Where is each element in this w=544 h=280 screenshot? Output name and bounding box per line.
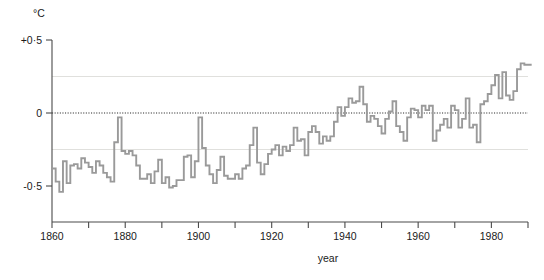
x-axis-tick-label: 1980 <box>480 230 504 242</box>
y-axis-tick-label: -0·5 <box>23 180 42 192</box>
x-axis-tick-label: 1880 <box>114 230 138 242</box>
x-axis-tick-label: 1900 <box>187 230 211 242</box>
temperature-step-line <box>52 63 532 191</box>
x-axis-tick-label: 1920 <box>260 230 284 242</box>
x-axis: 1860188019001920194019601980 <box>40 222 528 242</box>
y-axis-ticks: +0·50-0·5 <box>21 34 52 192</box>
y-axis-tick-label: +0·5 <box>21 34 42 46</box>
x-axis-title: year <box>318 252 339 264</box>
y-axis-tick-label: 0 <box>36 107 42 119</box>
chart-canvas: +0·50-0·5 1860188019001920194019601980 °… <box>0 0 544 280</box>
y-axis-unit-label: °C <box>33 7 45 19</box>
y-axis: +0·50-0·5 <box>21 34 52 222</box>
temperature-anomaly-chart: +0·50-0·5 1860188019001920194019601980 °… <box>0 0 544 280</box>
x-axis-tick-label: 1860 <box>40 230 64 242</box>
x-axis-tick-label: 1940 <box>333 230 357 242</box>
gridlines <box>52 77 528 150</box>
x-axis-tick-label: 1960 <box>406 230 430 242</box>
x-axis-ticks: 1860188019001920194019601980 <box>40 222 528 242</box>
